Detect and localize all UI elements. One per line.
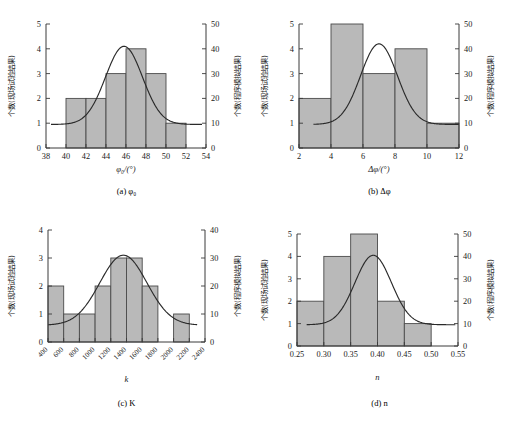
caption-c: (c) K: [0, 398, 253, 408]
svg-text:个数(程序模拟结果): 个数(程序模拟结果): [233, 55, 242, 117]
svg-text:2: 2: [297, 152, 301, 161]
svg-text:5: 5: [288, 230, 292, 239]
svg-text:20: 20: [211, 94, 219, 103]
svg-text:3: 3: [37, 70, 41, 79]
svg-text:个数(程序模拟结果): 个数(程序模拟结果): [486, 55, 495, 117]
chart-d: 012345010203040500.250.300.350.400.450.5…: [253, 212, 506, 425]
svg-text:20: 20: [463, 297, 471, 306]
svg-text:6: 6: [361, 152, 365, 161]
svg-text:0: 0: [290, 144, 294, 153]
svg-text:10: 10: [210, 310, 218, 319]
svg-text:0.25: 0.25: [290, 350, 305, 359]
svg-text:5: 5: [37, 20, 41, 29]
svg-text:0: 0: [464, 144, 468, 153]
chart-c: 0123401020304040060080010001200140016001…: [0, 212, 253, 425]
svg-text:1600: 1600: [128, 345, 144, 361]
svg-text:40: 40: [211, 45, 219, 54]
svg-text:30: 30: [464, 70, 472, 79]
svg-text:3: 3: [39, 254, 43, 263]
svg-text:2: 2: [37, 94, 41, 103]
svg-text:0.45: 0.45: [397, 350, 412, 359]
svg-text:2: 2: [290, 94, 294, 103]
svg-text:8: 8: [393, 152, 397, 161]
panel-d: 012345010203040500.250.300.350.400.450.5…: [253, 212, 506, 424]
svg-text:k: k: [125, 374, 129, 384]
svg-text:30: 30: [463, 275, 471, 284]
panel-c: 0123401020304040060080010001200140016001…: [0, 212, 253, 424]
svg-text:600: 600: [52, 345, 66, 359]
svg-text:4: 4: [39, 226, 44, 235]
caption-d: (d) n: [253, 398, 506, 408]
svg-text:5: 5: [290, 20, 294, 29]
svg-text:0: 0: [39, 338, 43, 347]
svg-text:4: 4: [290, 45, 295, 54]
svg-text:0: 0: [37, 144, 41, 153]
svg-text:1: 1: [288, 320, 292, 329]
svg-text:40: 40: [210, 226, 218, 235]
svg-text:20: 20: [464, 94, 472, 103]
svg-text:个数(现场试验结果): 个数(现场试验结果): [260, 259, 269, 321]
svg-text:Δφ/(°): Δφ/(°): [367, 164, 389, 174]
svg-text:1200: 1200: [96, 345, 112, 361]
svg-text:42: 42: [82, 152, 90, 161]
svg-text:1: 1: [290, 119, 294, 128]
svg-text:50: 50: [211, 20, 219, 29]
svg-text:50: 50: [463, 230, 471, 239]
svg-text:φ₀/(°): φ₀/(°): [116, 164, 135, 174]
svg-text:46: 46: [122, 152, 130, 161]
svg-text:10: 10: [423, 152, 431, 161]
svg-text:44: 44: [102, 152, 111, 161]
svg-text:个数(程序模拟结果): 个数(程序模拟结果): [233, 255, 242, 317]
svg-text:4: 4: [329, 152, 334, 161]
svg-text:50: 50: [162, 152, 170, 161]
chart-b: 0123450102030405024681012Δφ/(°)个数(现场试验结果…: [253, 0, 506, 212]
svg-text:30: 30: [210, 254, 218, 263]
svg-text:12: 12: [455, 152, 463, 161]
svg-text:0.40: 0.40: [370, 350, 385, 359]
svg-text:2: 2: [288, 297, 292, 306]
svg-text:40: 40: [463, 252, 471, 261]
svg-text:个数(现场试验结果): 个数(现场试验结果): [260, 55, 269, 117]
caption-b: (b) Δφ: [253, 186, 506, 196]
svg-text:10: 10: [211, 119, 219, 128]
svg-text:0.50: 0.50: [424, 350, 439, 359]
svg-text:1: 1: [39, 310, 43, 319]
chart-a: 01234501020304050384042444648505254φ₀/(°…: [0, 0, 253, 212]
svg-text:2000: 2000: [159, 345, 175, 361]
svg-text:20: 20: [210, 282, 218, 291]
svg-text:800: 800: [68, 345, 82, 359]
svg-text:4: 4: [288, 252, 293, 261]
svg-text:40: 40: [464, 45, 472, 54]
svg-text:10: 10: [463, 320, 471, 329]
svg-text:48: 48: [142, 152, 150, 161]
svg-text:1400: 1400: [112, 345, 128, 361]
svg-text:0: 0: [210, 338, 214, 347]
svg-text:38: 38: [42, 152, 50, 161]
figure-histogram-grid: 01234501020304050384042444648505254φ₀/(°…: [0, 0, 506, 425]
svg-text:0.55: 0.55: [451, 350, 466, 359]
svg-text:1000: 1000: [81, 345, 97, 361]
svg-text:10: 10: [464, 119, 472, 128]
svg-text:0.30: 0.30: [317, 350, 332, 359]
svg-text:2200: 2200: [175, 345, 191, 361]
svg-text:40: 40: [62, 152, 70, 161]
svg-text:0: 0: [211, 144, 215, 153]
svg-text:个数(程序模拟结果): 个数(程序模拟结果): [486, 259, 495, 321]
svg-text:1: 1: [37, 119, 41, 128]
svg-text:2400: 2400: [191, 345, 207, 361]
svg-text:2: 2: [39, 282, 43, 291]
svg-text:3: 3: [290, 70, 294, 79]
svg-text:4: 4: [37, 45, 42, 54]
svg-text:52: 52: [182, 152, 190, 161]
svg-text:n: n: [375, 372, 379, 382]
panel-a: 01234501020304050384042444648505254φ₀/(°…: [0, 0, 253, 212]
svg-text:50: 50: [464, 20, 472, 29]
svg-text:0.35: 0.35: [343, 350, 358, 359]
panel-b: 0123450102030405024681012Δφ/(°)个数(现场试验结果…: [253, 0, 506, 212]
svg-text:1800: 1800: [143, 345, 159, 361]
svg-text:3: 3: [288, 275, 292, 284]
caption-a: (a) φ₀: [0, 186, 253, 196]
svg-text:400: 400: [36, 345, 50, 359]
svg-text:30: 30: [211, 70, 219, 79]
svg-text:个数(现场试验结果): 个数(现场试验结果): [7, 255, 16, 317]
